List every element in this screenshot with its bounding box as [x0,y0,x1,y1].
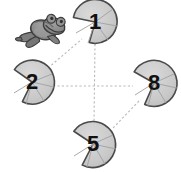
link-2-1 [48,39,82,68]
lilypad-5-label: 5 [87,131,99,156]
scene-canvas: 1 2 8 [0,0,181,172]
lilypad-2[interactable]: 2 [11,58,57,106]
lilypad-8-label: 8 [148,70,160,95]
lilypad-5[interactable]: 5 [71,120,118,170]
lilypad-8[interactable]: 8 [132,59,179,108]
lilypad-1[interactable]: 1 [71,0,120,46]
frog[interactable] [14,6,68,56]
connection-lines [48,39,139,128]
link-1-5 [94,44,95,122]
lilypad-2-label: 2 [26,69,38,94]
lilypad-1-label: 1 [89,9,101,34]
link-8-5 [113,101,139,128]
lilypad-scene: 1 2 8 [0,0,181,172]
